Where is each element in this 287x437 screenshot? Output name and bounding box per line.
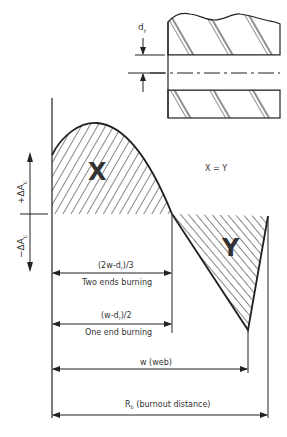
positive-delta-label: +ΔAc <box>16 181 28 204</box>
equality-label: X = Y <box>205 164 227 173</box>
dim-web-label: w (web) <box>140 358 172 367</box>
dim-one-end-formula: (w-dr)/2 <box>101 311 132 321</box>
dim-burnout-label: Rb (burnout distance) <box>125 400 210 410</box>
negative-delta-label: −ΔAc <box>16 235 28 258</box>
region-x <box>52 123 172 214</box>
grain-bottom-body <box>168 90 280 118</box>
dim-burnout: Rb (burnout distance) <box>53 400 267 415</box>
dim-one-end: (w-dr)/2 One end burning <box>53 311 171 337</box>
dim-two-ends-caption: Two ends burning <box>81 278 152 287</box>
dim-one-end-caption: One end burning <box>85 328 152 337</box>
perforation-label: dr <box>138 22 147 34</box>
region-y <box>172 214 268 330</box>
grain-top-body <box>168 13 280 55</box>
region-y-label: Y <box>221 234 240 262</box>
delta-axis: +ΔAc −ΔAc <box>16 152 48 272</box>
region-x-label: X <box>88 158 107 186</box>
grain-section: dr <box>128 13 280 118</box>
diagram-canvas: dr X Y X = Y +ΔAc −ΔAc (2w-dr)/3 Two end… <box>0 0 287 437</box>
dim-two-ends: (2w-dr)/3 Two ends burning <box>53 261 171 287</box>
dim-two-ends-formula: (2w-dr)/3 <box>98 261 134 271</box>
dim-web: w (web) <box>53 358 247 369</box>
